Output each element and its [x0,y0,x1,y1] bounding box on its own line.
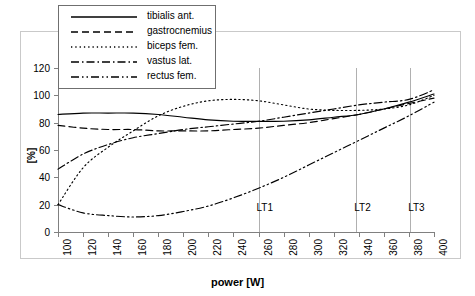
chart-figure: 020406080100120 100120140160180200220240… [0,0,475,296]
legend-label-tibialis-ant-: tibialis ant. [147,10,194,21]
legend-label-vastus-lat-: vastus lat. [147,55,192,66]
legend-label-gastrocnemius: gastrocnemius [147,25,212,36]
series-line-biceps-fem- [58,95,434,204]
legend-label-rectus-fem-: rectus fem. [147,70,196,81]
series-line-rectus-fem- [58,102,434,217]
legend-label-biceps-fem-: biceps fem. [147,40,198,51]
chart-legend: tibialis ant.gastrocnemiusbiceps fem.vas… [58,5,216,89]
series-line-tibialis-ant- [58,94,434,121]
